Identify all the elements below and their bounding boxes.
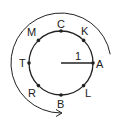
label-B: B (57, 98, 64, 110)
diagram-canvas: 1 A K C M T R B L (0, 0, 119, 127)
label-R: R (28, 87, 36, 99)
point-M (37, 39, 41, 43)
label-C: C (57, 18, 65, 30)
point-A (91, 61, 95, 65)
label-T: T (19, 57, 26, 69)
label-K: K (81, 25, 89, 37)
unit-circle-diagram: 1 A K C M T R B L (0, 0, 119, 127)
label-L: L (85, 87, 91, 99)
point-K (82, 39, 86, 43)
point-B (59, 93, 63, 97)
point-T (27, 61, 31, 65)
label-M: M (27, 26, 36, 38)
point-R (37, 84, 41, 88)
label-A: A (96, 58, 104, 70)
radius-label: 1 (75, 50, 81, 62)
